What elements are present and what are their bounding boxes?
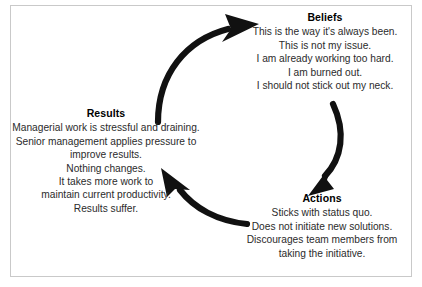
node-actions-title: Actions <box>232 192 412 205</box>
node-results-line-1: Managerial work is stressful and drainin… <box>8 121 204 134</box>
node-results-line-2: Senior management applies pressure to <box>8 135 204 148</box>
node-results: Results Managerial work is stressful and… <box>8 107 204 215</box>
node-actions-line-1: Sticks with status quo. <box>232 206 412 219</box>
node-actions: Actions Sticks with status quo. Does not… <box>232 192 412 260</box>
node-beliefs-line-4: I am burned out. <box>236 66 414 79</box>
node-results-title: Results <box>8 107 204 120</box>
node-results-line-6: maintain current productivity. <box>8 188 204 201</box>
diagram-canvas: Beliefs This is the way it's always been… <box>0 0 422 287</box>
node-results-line-5: It takes more work to <box>8 175 204 188</box>
node-beliefs-title: Beliefs <box>236 11 414 24</box>
node-beliefs-line-2: This is not my issue. <box>236 39 414 52</box>
node-actions-line-2: Does not initiate new solutions. <box>232 220 412 233</box>
node-actions-line-4: taking the initiative. <box>232 247 412 260</box>
arrow-beliefs-to-actions <box>308 104 341 196</box>
node-results-line-7: Results suffer. <box>8 202 204 215</box>
node-beliefs-line-1: This is the way it's always been. <box>236 25 414 38</box>
node-results-line-3: improve results. <box>8 148 204 161</box>
node-beliefs: Beliefs This is the way it's always been… <box>236 11 414 92</box>
node-beliefs-line-3: I am already working too hard. <box>236 52 414 65</box>
node-actions-line-3: Discourages team members from <box>232 233 412 246</box>
node-beliefs-line-5: I should not stick out my neck. <box>236 79 414 92</box>
node-results-line-4: Nothing changes. <box>8 162 204 175</box>
